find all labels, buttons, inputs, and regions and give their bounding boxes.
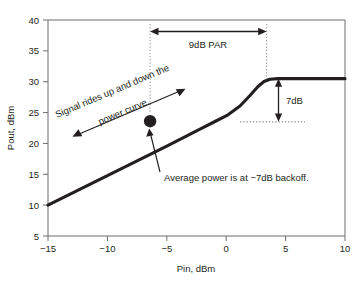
x-tick-label: 0 [224, 243, 229, 254]
y-tick-label: 40 [28, 15, 39, 26]
x-tick-label: 5 [283, 243, 288, 254]
y-tick-label: 5 [34, 231, 39, 242]
x-tick-label: −15 [40, 243, 56, 254]
par-arrow [150, 28, 267, 35]
x-tick-label: −5 [161, 243, 172, 254]
x-tick-label: 10 [340, 243, 351, 254]
x-axis-tick-labels: −15 −10 −5 0 5 10 [40, 243, 350, 254]
backoff-arrow [275, 79, 282, 122]
y-tick-label: 10 [28, 200, 39, 211]
x-axis-ticks [48, 236, 345, 241]
y-tick-label: 20 [28, 138, 39, 149]
power-curve-chart: 40 35 30 25 20 15 10 5 −15 −10 −5 0 5 10 [0, 0, 363, 285]
x-axis-title: Pin, dBm [177, 263, 216, 274]
chart-canvas: 40 35 30 25 20 15 10 5 −15 −10 −5 0 5 10 [0, 0, 363, 285]
average-power-point-marker [144, 115, 156, 127]
y-tick-label: 35 [28, 45, 39, 56]
backoff-annotation-label: 7dB [286, 95, 303, 106]
average-power-callout-label: Average power is at −7dB backoff. [164, 172, 309, 183]
y-axis-title: Pout, dBm [5, 106, 16, 150]
y-tick-label: 15 [28, 169, 39, 180]
x-tick-label: −10 [99, 243, 115, 254]
y-tick-label: 30 [28, 76, 39, 87]
y-axis-ticks [43, 20, 48, 236]
y-tick-label: 25 [28, 107, 39, 118]
y-axis-tick-labels: 40 35 30 25 20 15 10 5 [28, 15, 39, 242]
par-annotation-label: 9dB PAR [189, 39, 228, 50]
signal-swing-label-line2: power curve. [96, 95, 150, 126]
